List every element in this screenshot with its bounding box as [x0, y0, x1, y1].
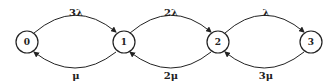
edge-label-2-3: λ: [262, 7, 269, 18]
node-3: 3: [300, 31, 322, 53]
edge-3-2: [225, 52, 304, 68]
edge-1-0: [34, 52, 116, 68]
node-1: 1: [113, 31, 135, 53]
edge-label-1-0: μ: [72, 70, 79, 81]
node-0-label: 0: [24, 37, 30, 47]
edge-label-1-2: 2λ: [164, 7, 178, 18]
edge-2-1: [130, 52, 211, 68]
edge-label-2-1: 2μ: [164, 70, 178, 81]
node-3-label: 3: [308, 37, 314, 47]
node-2-label: 2: [215, 37, 221, 47]
node-1-label: 1: [121, 37, 127, 47]
node-0: 0: [16, 31, 38, 53]
node-2: 2: [207, 31, 229, 53]
edge-label-0-1: 3λ: [69, 7, 83, 18]
edge-label-3-2: 3μ: [259, 70, 273, 81]
state-diagram: 0 1 2 3 3λ 2λ λ μ 2μ 3μ: [0, 0, 335, 82]
